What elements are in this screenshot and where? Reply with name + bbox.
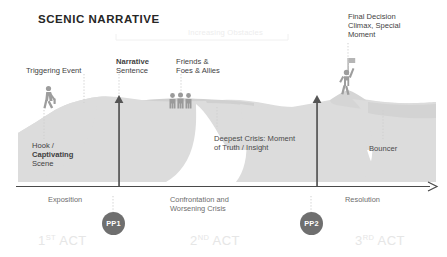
narrative-label-bold: Narrative [116, 57, 149, 66]
left-slope-fill [18, 97, 130, 182]
deepest-crisis-label-line1: Deepest Crisis: Moment [214, 134, 295, 143]
hook-label-line1: Hook / [32, 141, 54, 150]
friends-foes-label-line2: Foes & Allies [176, 66, 220, 75]
plot-point-pp1[interactable]: PP1 [102, 212, 125, 235]
summit-cap [330, 90, 390, 110]
terrain-illustration [0, 0, 447, 257]
hook-label-line3: Scene [32, 159, 54, 168]
act-2-number: 2 [190, 233, 198, 248]
final-decision-label-line3: Moment [348, 30, 375, 39]
increasing-obstacles-label: Increasing Obstacles [188, 28, 263, 37]
axis-label-confrontation-line2: Worsening Crisis [170, 204, 226, 213]
triggering-event-label: Triggering Event [26, 66, 81, 75]
timeline-axis [16, 182, 437, 191]
page-title: SCENIC NARRATIVE [38, 12, 160, 26]
friends-foes-label-line1: Friends & [176, 57, 209, 66]
final-decision-label-line2: Climax, Special [348, 21, 400, 30]
final-decision-label-line1: Final Decision [348, 12, 396, 21]
act-2-ordinal: ND [198, 233, 210, 242]
act-label-2: 2ND ACT [190, 233, 240, 249]
plot-point-pp2[interactable]: PP2 [300, 212, 323, 235]
right-cliff-band [368, 102, 436, 118]
act-1-word: ACT [59, 233, 86, 248]
person-with-flag-icon [339, 68, 354, 95]
axis-label-resolution: Resolution [345, 195, 380, 204]
summit-flag-icon [348, 58, 356, 75]
act-1-ordinal: ST [46, 233, 56, 242]
act-1-number: 1 [38, 233, 46, 248]
group-of-people-icon [170, 93, 192, 109]
left-plateau-body [30, 97, 211, 182]
act-label-3: 3RD ACT [355, 233, 405, 249]
act-3-word: ACT [378, 233, 405, 248]
arrow-up-icon [313, 95, 322, 186]
narrative-label-rest: Sentence [116, 66, 148, 75]
right-shelf [352, 99, 436, 182]
act-3-ordinal: RD [363, 233, 375, 242]
act-3-number: 3 [355, 233, 363, 248]
arrow-up-icon [115, 95, 124, 186]
bouncer-label: Bouncer [369, 144, 397, 153]
axis-label-confrontation-line1: Confrontation and [170, 195, 229, 204]
hook-label-line2: Captivating [32, 150, 73, 159]
axis-label-exposition: Exposition [48, 195, 82, 204]
act-label-1: 1ST ACT [38, 233, 87, 249]
deepest-crisis-label-line2: of Truth / Insight [214, 143, 268, 152]
act-2-word: ACT [213, 233, 240, 248]
scenic-narrative-diagram: SCENIC NARRATIVE Increasing Obstacles Tr… [0, 0, 447, 257]
axis-arrow-right-icon [428, 182, 437, 191]
ridge-line [134, 98, 254, 106]
walking-person-icon [43, 86, 55, 109]
